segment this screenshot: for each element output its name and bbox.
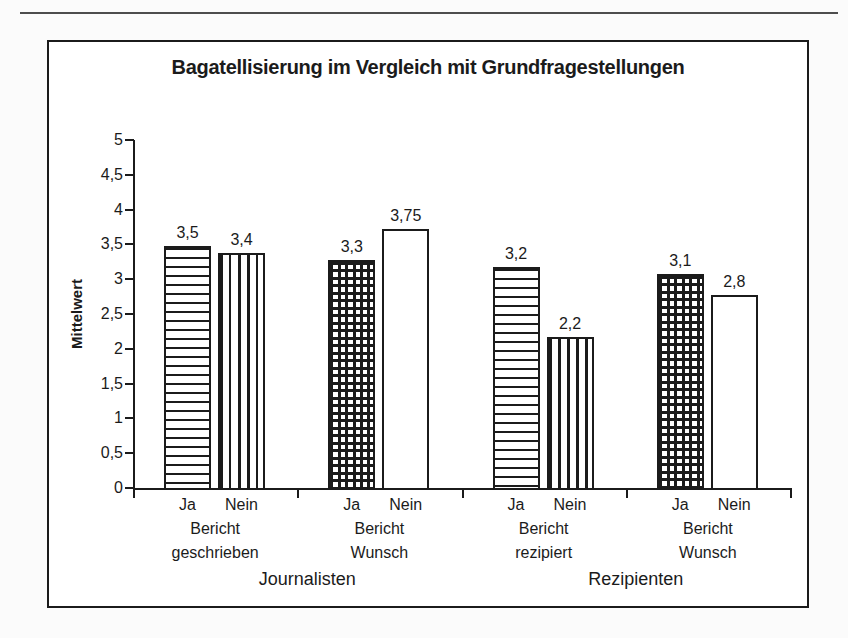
bar-ja-group4 xyxy=(657,274,704,490)
y-axis-tick xyxy=(125,243,134,245)
y-axis-tick xyxy=(125,348,134,350)
group-label-line1: Bericht xyxy=(299,520,459,538)
bar-category-label: Nein xyxy=(376,496,436,514)
y-axis-tick-label: 3 xyxy=(79,270,123,288)
y-axis-tick xyxy=(125,417,134,419)
section-label-journalisten: Journalisten xyxy=(197,568,417,590)
bar-nein-group2 xyxy=(382,229,429,490)
bar-value-label: 3,75 xyxy=(376,207,436,225)
group-label-line2: Wunsch xyxy=(628,544,788,562)
bar-category-label: Ja xyxy=(486,496,546,514)
y-axis-tick-label: 2 xyxy=(79,340,123,358)
group-label-line2: Wunsch xyxy=(299,544,459,562)
bar-category-label: Ja xyxy=(158,496,218,514)
bar-value-label: 3,1 xyxy=(650,252,710,270)
bar-category-label: Nein xyxy=(540,496,600,514)
bar-value-label: 3,3 xyxy=(322,238,382,256)
group-label-line2: rezipiert xyxy=(464,544,624,562)
bar-ja-group2 xyxy=(328,260,375,490)
bar-value-label: 3,2 xyxy=(486,245,546,263)
chart-frame: Bagatellisierung im Vergleich mit Grundf… xyxy=(47,40,809,608)
y-axis-tick-label: 0 xyxy=(79,479,123,497)
y-axis-tick-label: 5 xyxy=(79,131,123,149)
x-axis-tick xyxy=(626,488,628,498)
y-axis-tick-label: 0,5 xyxy=(79,444,123,462)
x-axis-tick xyxy=(790,488,792,498)
bar-value-label: 3,5 xyxy=(158,224,218,242)
bar-nein-group1 xyxy=(218,253,265,490)
bar-ja-group1 xyxy=(164,246,211,490)
bar-value-label: 2,8 xyxy=(704,273,764,291)
x-axis-tick xyxy=(133,488,135,498)
y-axis-tick-label: 3,5 xyxy=(79,235,123,253)
y-axis-tick xyxy=(125,383,134,385)
group-label-line2: geschrieben xyxy=(135,544,295,562)
y-axis-tick-label: 1,5 xyxy=(79,375,123,393)
bar-category-label: Ja xyxy=(650,496,710,514)
group-label-line1: Bericht xyxy=(135,520,295,538)
group-label-line1: Bericht xyxy=(464,520,624,538)
y-axis-tick xyxy=(125,313,134,315)
bar-category-label: Ja xyxy=(322,496,382,514)
y-axis-tick-label: 1 xyxy=(79,409,123,427)
x-axis-tick xyxy=(297,488,299,498)
bar-category-label: Nein xyxy=(212,496,272,514)
y-axis-tick-label: 4,5 xyxy=(79,166,123,184)
bar-value-label: 3,4 xyxy=(212,231,272,249)
bar-category-label: Nein xyxy=(704,496,764,514)
y-axis-tick xyxy=(125,278,134,280)
x-axis-tick xyxy=(462,488,464,498)
bar-nein-group4 xyxy=(711,295,758,490)
y-axis-tick xyxy=(125,452,134,454)
group-label-line1: Bericht xyxy=(628,520,788,538)
bar-nein-group3 xyxy=(547,337,594,490)
page-top-rule xyxy=(20,12,838,14)
bar-ja-group3 xyxy=(493,267,540,490)
y-axis-tick-label: 2,5 xyxy=(79,305,123,323)
y-axis-tick-label: 4 xyxy=(79,201,123,219)
plot-area: Mittelwert 00,511,522,533,544,553,5Ja3,4… xyxy=(49,42,807,606)
section-label-rezipienten: Rezipienten xyxy=(526,568,746,590)
bar-value-label: 2,2 xyxy=(540,315,600,333)
y-axis-tick xyxy=(125,174,134,176)
y-axis-tick xyxy=(125,209,134,211)
y-axis-line xyxy=(133,140,135,490)
y-axis-tick xyxy=(125,139,134,141)
